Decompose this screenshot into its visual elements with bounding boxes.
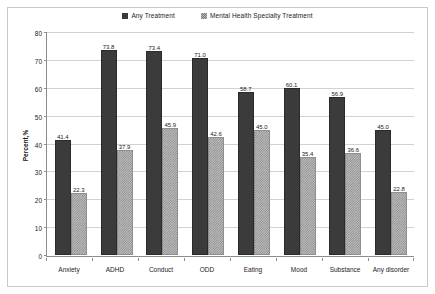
y-tick-mark bbox=[44, 60, 47, 61]
x-tick-mark bbox=[413, 258, 414, 261]
bar-any-treatment[interactable]: 73.8 bbox=[101, 50, 117, 255]
x-tick-mark bbox=[276, 258, 277, 261]
legend-entry-any-treatment: Any Treatment bbox=[122, 12, 175, 19]
x-tick-odd: ODD bbox=[184, 258, 230, 278]
y-tick-label: 30 bbox=[35, 169, 42, 176]
x-tick-label: Conduct bbox=[149, 266, 173, 273]
y-tick-label: 60 bbox=[35, 85, 42, 92]
bar-value-label: 71.0 bbox=[194, 52, 206, 58]
x-tick-mark bbox=[184, 258, 185, 261]
bar-any-treatment[interactable]: 41.4 bbox=[55, 140, 71, 255]
y-tick-label: 20 bbox=[35, 197, 42, 204]
x-tick-mark bbox=[368, 258, 369, 261]
bar-group: 45.022.8 bbox=[368, 33, 414, 255]
bar-value-label: 45.9 bbox=[165, 122, 177, 128]
x-tick-adhd: ADHD bbox=[92, 258, 138, 278]
x-tick-label: ODD bbox=[200, 266, 214, 273]
bar-value-label: 36.6 bbox=[348, 147, 360, 153]
x-tick-any-disorder: Any disorder bbox=[368, 258, 414, 278]
bar-value-label: 22.3 bbox=[73, 187, 85, 193]
x-tick-mood: Mood bbox=[276, 258, 322, 278]
bar-any-treatment[interactable]: 45.0 bbox=[375, 130, 391, 255]
bar-value-label: 37.9 bbox=[119, 144, 131, 150]
legend-swatch-icon-any-treatment bbox=[122, 13, 128, 19]
y-tick-mark bbox=[44, 144, 47, 145]
legend-swatch-icon-mental-health-specialty-treatment bbox=[201, 13, 207, 19]
y-tick-mark bbox=[44, 255, 47, 256]
bar-group: 56.936.6 bbox=[323, 33, 369, 255]
bar-mental-health-specialty-treatment[interactable]: 42.6 bbox=[208, 137, 224, 255]
bar-value-label: 73.8 bbox=[103, 44, 115, 50]
x-tick-mark bbox=[230, 258, 231, 261]
bar-mental-health-specialty-treatment[interactable]: 36.6 bbox=[345, 153, 361, 255]
bar-value-label: 42.6 bbox=[210, 131, 222, 137]
bar-any-treatment[interactable]: 71.0 bbox=[192, 58, 208, 255]
y-tick-mark bbox=[44, 199, 47, 200]
bar-group: 71.042.6 bbox=[185, 33, 231, 255]
x-tick-mark bbox=[46, 258, 47, 261]
plot-wrap: 01020304050607080 41.422.373.837.973.445… bbox=[46, 33, 414, 257]
y-tick-label: 70 bbox=[35, 57, 42, 64]
bar-chart-figure: Any Treatment Mental Health Specialty Tr… bbox=[0, 0, 435, 294]
x-tick-mark bbox=[92, 258, 93, 261]
x-tick-label: Eating bbox=[244, 266, 262, 273]
x-tick-mark bbox=[138, 258, 139, 261]
bar-group: 41.422.3 bbox=[48, 33, 94, 255]
y-tick-label: 80 bbox=[35, 30, 42, 37]
x-tick-mark bbox=[322, 258, 323, 261]
y-tick-label: 40 bbox=[35, 141, 42, 148]
x-tick-label: ADHD bbox=[106, 266, 124, 273]
bar-value-label: 22.8 bbox=[393, 186, 405, 192]
bar-mental-health-specialty-treatment[interactable]: 45.0 bbox=[254, 130, 270, 255]
x-tick-anxiety: Anxiety bbox=[46, 258, 92, 278]
bar-any-treatment[interactable]: 73.4 bbox=[146, 51, 162, 255]
bar-value-label: 41.4 bbox=[57, 134, 69, 140]
y-tick-mark bbox=[44, 88, 47, 89]
legend-label-mental-health-specialty-treatment: Mental Health Specialty Treatment bbox=[210, 12, 313, 19]
bar-value-label: 60.1 bbox=[286, 82, 298, 88]
bar-value-label: 73.4 bbox=[149, 45, 161, 51]
y-tick-mark bbox=[44, 171, 47, 172]
x-tick-label: Substance bbox=[330, 266, 361, 273]
plot-area: 01020304050607080 41.422.373.837.973.445… bbox=[46, 33, 414, 257]
bar-group: 73.445.9 bbox=[140, 33, 186, 255]
y-tick-mark bbox=[44, 32, 47, 33]
x-tick-conduct: Conduct bbox=[138, 258, 184, 278]
bar-any-treatment[interactable]: 60.1 bbox=[284, 88, 300, 255]
x-tick-label: Any disorder bbox=[373, 266, 410, 273]
y-axis-title-label: Percent,% bbox=[22, 129, 29, 160]
bar-groups: 41.422.373.837.973.445.971.042.658.745.0… bbox=[48, 33, 414, 255]
legend-entry-mental-health-specialty-treatment: Mental Health Specialty Treatment bbox=[201, 12, 313, 19]
bar-value-label: 58.7 bbox=[240, 86, 252, 92]
chart-legend: Any Treatment Mental Health Specialty Tr… bbox=[0, 12, 435, 19]
y-tick-label: 0 bbox=[38, 253, 42, 260]
bar-any-treatment[interactable]: 58.7 bbox=[238, 92, 254, 255]
bar-mental-health-specialty-treatment[interactable]: 35.4 bbox=[300, 157, 316, 255]
bar-value-label: 45.0 bbox=[377, 124, 389, 130]
x-tick-substance: Substance bbox=[322, 258, 368, 278]
bar-mental-health-specialty-treatment[interactable]: 22.8 bbox=[391, 192, 407, 255]
bar-group: 60.135.4 bbox=[277, 33, 323, 255]
bar-value-label: 45.0 bbox=[256, 124, 268, 130]
x-tick-label: Mood bbox=[291, 266, 307, 273]
bar-group: 58.745.0 bbox=[231, 33, 277, 255]
bar-value-label: 35.4 bbox=[302, 151, 314, 157]
y-tick-mark bbox=[44, 227, 47, 228]
x-tick-label: Anxiety bbox=[58, 266, 79, 273]
y-tick-label: 50 bbox=[35, 113, 42, 120]
bar-mental-health-specialty-treatment[interactable]: 37.9 bbox=[117, 150, 133, 255]
x-tick-eating: Eating bbox=[230, 258, 276, 278]
y-tick-mark bbox=[44, 116, 47, 117]
bar-mental-health-specialty-treatment[interactable]: 22.3 bbox=[71, 193, 87, 255]
bar-group: 73.837.9 bbox=[94, 33, 140, 255]
bar-any-treatment[interactable]: 56.9 bbox=[329, 97, 345, 255]
x-axis-ticks: AnxietyADHDConductODDEatingMoodSubstance… bbox=[46, 258, 414, 278]
bar-value-label: 56.9 bbox=[332, 91, 344, 97]
legend-label-any-treatment: Any Treatment bbox=[131, 12, 175, 19]
y-tick-label: 10 bbox=[35, 225, 42, 232]
bar-mental-health-specialty-treatment[interactable]: 45.9 bbox=[162, 128, 178, 255]
